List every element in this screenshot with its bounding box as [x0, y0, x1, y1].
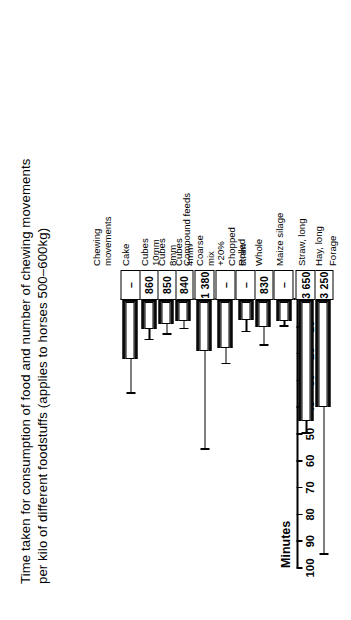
error-bar	[263, 327, 265, 346]
category-label: Maize silage	[273, 208, 284, 266]
group-label-forage: Forage	[326, 208, 337, 266]
error-bar	[130, 359, 132, 394]
bar-inner-marker	[258, 302, 267, 327]
error-bar-cap	[259, 344, 268, 346]
bar-inner-marker	[301, 302, 310, 421]
bar-inner-marker	[144, 302, 153, 329]
chart-figure: Time taken for consumption of food and n…	[0, 0, 351, 620]
error-bar-cap	[126, 392, 135, 394]
axis-tick-label: 90	[303, 535, 315, 547]
bar-inner-marker	[279, 302, 288, 321]
bar-inner-marker	[220, 302, 229, 348]
axis-tick-label: 60	[303, 455, 315, 467]
axis-tick	[296, 540, 302, 542]
legend-chewing-movements: Chewing movements	[90, 204, 112, 266]
chewing-movement-value: –	[235, 270, 255, 300]
axis-tick	[296, 567, 302, 569]
error-bar	[204, 351, 206, 450]
chart-title: Time taken for consumption of food and n…	[16, 154, 51, 584]
bar-inner-marker	[318, 302, 327, 407]
error-bar-cap	[221, 363, 230, 365]
category-label: Cake	[119, 208, 130, 266]
axis-tick	[296, 487, 302, 489]
axis-tick-label: 100	[303, 558, 315, 577]
error-bar-cap	[162, 333, 171, 335]
axis-tick	[296, 514, 302, 516]
chewing-movement-value: –	[120, 270, 140, 300]
bar-inner-marker	[161, 302, 170, 324]
group-label-compound-feeds: Compound feeds	[180, 196, 191, 266]
rotated-figure-wrapper: Time taken for consumption of food and n…	[0, 0, 351, 620]
error-bar-cap	[301, 432, 310, 434]
category-label: Cubes 10mm	[138, 208, 160, 266]
error-bar-cap	[319, 553, 328, 555]
chewing-movement-value: –	[215, 270, 235, 300]
error-bar-cap	[200, 449, 209, 451]
axis-tick-label: 80	[303, 508, 315, 520]
bar-inner-marker	[125, 302, 134, 359]
chewing-movement-value: 860	[138, 270, 158, 300]
chewing-movement-value: –	[273, 270, 293, 300]
error-bar-cap	[241, 331, 250, 333]
category-label: Coarse mix	[193, 208, 215, 266]
category-label: Hay, long	[312, 208, 323, 266]
chewing-movement-value: 3 650	[295, 270, 315, 300]
bar-inner-marker	[178, 302, 187, 321]
chewing-movement-value: 1 380	[194, 270, 214, 300]
axis-tick	[296, 460, 302, 462]
category-label: Whole	[252, 208, 263, 266]
error-bar-cap	[144, 339, 153, 341]
axis-tick-label: 70	[303, 481, 315, 493]
error-bar	[323, 407, 325, 554]
bar-inner-marker	[241, 302, 250, 320]
category-label: +20% Chopped straw	[214, 208, 247, 266]
value-axis-title: Minutes	[278, 521, 292, 568]
category-label: Straw, long	[295, 208, 306, 266]
error-bar-cap	[179, 328, 188, 330]
error-bar-cap	[279, 325, 288, 327]
bar-inner-marker	[199, 302, 208, 351]
